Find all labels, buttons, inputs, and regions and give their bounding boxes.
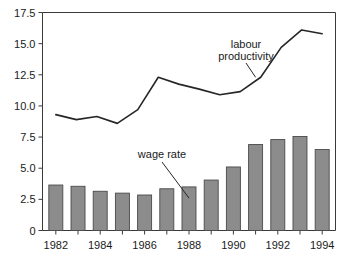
labour-productivity-wage-rate-chart: 02.55.07.510.012.515.017.5 1982198419861… [0,0,349,269]
y-tick-label: 7.5 [20,131,35,143]
wage-rate-label: wage rate [137,148,186,160]
labour-productivity-label-line2: productivity [218,50,274,62]
x-tick-label: 1986 [132,239,156,251]
x-tick-label: 1990 [221,239,245,251]
y-tick-label: 17.5 [14,7,35,19]
bar [49,185,63,230]
labour-productivity-label-line1: labour [231,38,262,50]
bar [138,195,152,231]
x-tick-label: 1992 [266,239,290,251]
bar [315,150,329,231]
y-tick-label: 12.5 [14,69,35,81]
x-tick-label: 1982 [44,239,68,251]
y-tick-label: 10.0 [14,100,35,112]
bar [160,189,174,231]
x-tick-label: 1988 [177,239,201,251]
bar [115,193,129,230]
bar [271,140,285,231]
y-tick-label: 15.0 [14,38,35,50]
y-tick-label: 0 [29,225,35,237]
bar [249,145,263,231]
x-tick-label: 1984 [88,239,112,251]
bar [226,167,240,231]
bar [204,180,218,230]
x-tick-label: 1994 [310,239,334,251]
chart-container: 02.55.07.510.012.515.017.5 1982198419861… [0,0,349,269]
bar [293,136,307,230]
bar [182,187,196,231]
bar [93,191,107,230]
y-tick-label: 2.5 [20,193,35,205]
bar [71,186,85,230]
y-tick-label: 5.0 [20,162,35,174]
